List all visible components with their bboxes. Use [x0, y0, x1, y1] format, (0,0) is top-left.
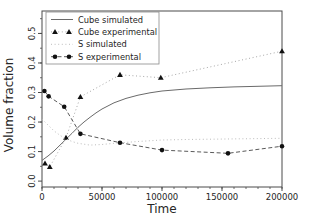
legend: Cube simulatedCube experimentalS simulat… — [46, 12, 159, 64]
circle-marker — [42, 89, 47, 94]
circle-marker — [226, 151, 231, 156]
x-tick-label: 200000 — [266, 192, 298, 202]
circle-marker — [62, 104, 67, 109]
y-tick-label: 0.2 — [28, 115, 38, 129]
x-axis-label: Time — [146, 202, 176, 216]
x-tick-label: 50000 — [88, 192, 115, 202]
circle-marker — [160, 148, 165, 153]
legend-label: S simulated — [78, 39, 127, 49]
y-tick-label: 0.1 — [28, 145, 38, 159]
chart-figure: 050000100000150000200000Time0.00.10.20.3… — [0, 0, 311, 218]
legend-label: Cube simulated — [78, 15, 143, 25]
chart-svg: 050000100000150000200000Time0.00.10.20.3… — [0, 0, 311, 218]
circle-marker — [280, 144, 285, 149]
circle-marker — [46, 94, 51, 99]
y-tick-label: 0.0 — [28, 174, 38, 188]
x-tick-label: 0 — [39, 192, 44, 202]
y-tick-label: 0.3 — [28, 86, 38, 100]
y-tick-label: 0.4 — [28, 56, 38, 70]
y-tick-label: 0.5 — [28, 27, 38, 41]
legend-circle-marker — [53, 54, 58, 59]
legend-circle-marker — [67, 54, 72, 59]
circle-marker — [118, 140, 123, 145]
x-tick-label: 100000 — [146, 192, 178, 202]
legend-label: Cube experimental — [78, 27, 157, 37]
x-tick-label: 150000 — [206, 192, 238, 202]
legend-label: S experimental — [78, 52, 141, 62]
circle-marker — [78, 132, 83, 137]
y-axis-label: Volume fraction — [2, 58, 16, 153]
